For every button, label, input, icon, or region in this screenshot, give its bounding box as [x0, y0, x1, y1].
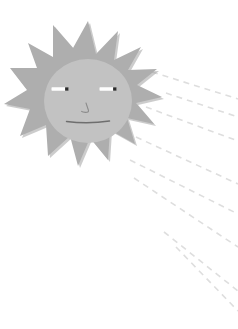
left-eye — [52, 87, 69, 90]
illustration-canvas: Sun with face and dashed rays — [0, 0, 238, 329]
right-eye-pupil-icon — [113, 87, 116, 90]
left-eye-pupil-icon — [65, 87, 68, 90]
right-eye — [100, 87, 117, 90]
sun-face-disc — [44, 59, 132, 143]
sun-face-group — [44, 59, 132, 143]
sun-scene — [0, 0, 238, 329]
